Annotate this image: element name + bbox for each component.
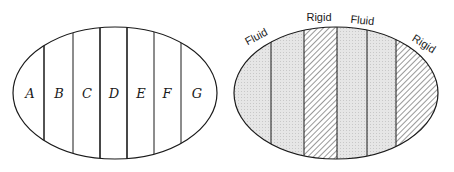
region-label-g: G	[192, 86, 202, 101]
rigid-region-1	[304, 0, 337, 172]
left-membrane-diagram: A B C D E F G	[13, 0, 217, 172]
label-fluid-2: Fluid	[350, 13, 375, 27]
rigid-region-2	[396, 0, 446, 172]
region-label-d: D	[108, 86, 120, 101]
region-label-e: E	[135, 86, 146, 101]
diagram-canvas: A B C D E F G Fluid Rigid Fluid Rigid	[0, 0, 454, 172]
region-label-b: B	[53, 86, 64, 101]
label-rigid-1: Rigid	[306, 11, 331, 23]
region-label-c: C	[82, 86, 92, 101]
right-membrane-diagram: Fluid Rigid Fluid Rigid	[234, 0, 446, 172]
label-fluid-1: Fluid	[243, 26, 270, 48]
region-label-f: F	[161, 86, 172, 101]
region-label-a: A	[24, 86, 34, 101]
